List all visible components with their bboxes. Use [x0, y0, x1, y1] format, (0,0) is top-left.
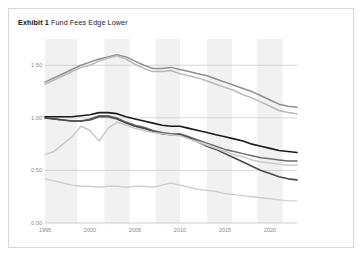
x-axis-tick-label: 2015 — [219, 227, 231, 233]
shaded-bands — [45, 39, 283, 223]
shaded-band — [257, 39, 282, 223]
shaded-band — [156, 39, 180, 223]
x-axis-tick-labels: 199520002005201020152020 — [39, 227, 276, 233]
y-axis-tick-labels: 0.000.501.001.50 — [31, 62, 42, 226]
line-chart-svg: 0.000.501.001.50 19952000200520102015202… — [9, 9, 355, 249]
y-axis-tick-label: 1.50 — [31, 62, 42, 68]
shaded-band — [45, 39, 77, 223]
y-axis-tick-label: 1.00 — [31, 115, 42, 121]
x-axis-tick-label: 1995 — [39, 227, 51, 233]
x-axis-tick-label: 2005 — [129, 227, 141, 233]
x-axis-tick-label: 2020 — [264, 227, 276, 233]
x-axis-tick-label: 2010 — [174, 227, 186, 233]
x-axis-tick-label: 2000 — [84, 227, 96, 233]
y-axis-tick-label: 0.50 — [31, 167, 42, 173]
shaded-band — [207, 39, 232, 223]
exhibit-frame: Exhibit 1 Fund Fees Edge Lower 0.000.501… — [8, 8, 354, 248]
shaded-band — [104, 39, 129, 223]
chart-plot-area: 0.000.501.001.50 19952000200520102015202… — [9, 9, 355, 249]
y-axis-tick-label: 0.00 — [31, 220, 42, 226]
